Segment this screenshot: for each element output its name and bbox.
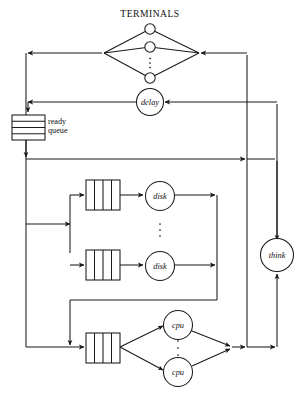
disk-ellipsis-icon <box>159 223 161 237</box>
ready-queue-group: ready queue <box>12 102 68 157</box>
ready-queue-label-line2: queue <box>48 126 68 135</box>
cpu-branch-top: cpu <box>120 311 230 348</box>
terminals-group <box>104 24 199 83</box>
cpu-ellipsis-icon <box>177 340 179 356</box>
ready-queue-label-line1: ready <box>48 117 67 126</box>
delay-label: delay <box>141 98 159 107</box>
disk-branch-top: disk <box>86 180 215 211</box>
cpu-top-label: cpu <box>172 321 184 330</box>
disk-fanout <box>26 195 84 265</box>
think-label: think <box>269 251 286 260</box>
disk-top-label: disk <box>153 192 167 201</box>
cpu-bottom-label: cpu <box>172 368 184 377</box>
think-group: think <box>261 104 294 347</box>
delay-group: delay <box>28 89 277 116</box>
terminal-node-2 <box>145 42 155 52</box>
cpu-queue-group <box>26 333 120 363</box>
page-title: TERMINALS <box>120 8 179 19</box>
disk-branch-bottom: disk <box>86 250 215 281</box>
terminal-node-n <box>145 73 155 83</box>
disk-bottom-label: disk <box>153 262 167 271</box>
cpu-branch-bottom: cpu <box>120 347 230 387</box>
terminals-ellipsis-icon <box>149 58 151 69</box>
terminal-node-1 <box>145 24 155 34</box>
queueing-network-diagram: TERMINALS delay <box>0 0 308 419</box>
